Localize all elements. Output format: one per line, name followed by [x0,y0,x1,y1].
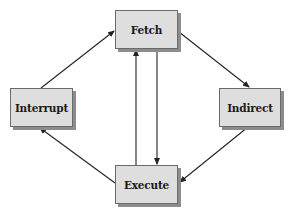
fetch-node: Fetch [115,10,178,49]
edge-fetch-to-indirect [179,32,249,87]
edge-indirect-to-execute [180,127,248,182]
edge-interrupt-to-fetch [41,31,114,88]
indirect-node: Indirect [219,88,281,127]
interrupt-node: Interrupt [10,88,73,127]
indirect-label: Indirect [227,102,273,114]
fetch-label: Fetch [131,24,162,36]
edge-execute-to-interrupt [40,128,115,183]
instruction-cycle-diagram: Fetch Interrupt Indirect Execute [0,0,296,217]
interrupt-label: Interrupt [15,102,68,114]
execute-label: Execute [124,179,169,191]
execute-node: Execute [115,165,178,204]
